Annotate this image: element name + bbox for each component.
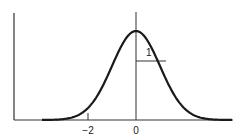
normal-curve-chart: 1 −2 0 — [0, 0, 241, 140]
tick-label-neg2: −2 — [82, 125, 94, 136]
sd-label: 1 — [146, 47, 152, 58]
tick-label-0: 0 — [133, 125, 139, 136]
density-curve — [42, 31, 232, 120]
